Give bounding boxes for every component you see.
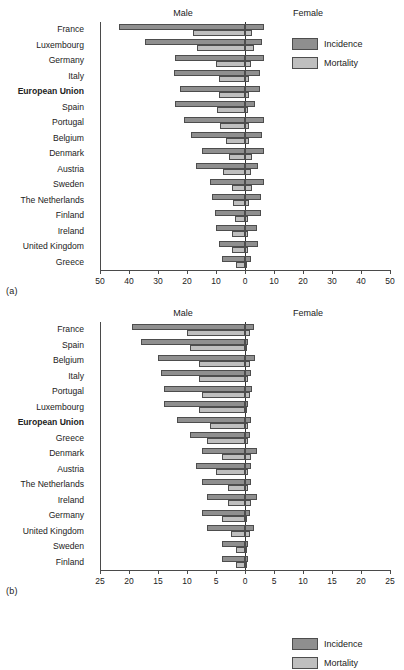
category-label: Germany (49, 56, 84, 65)
bar-female-mortality (245, 107, 248, 113)
bar-female-incidence (245, 386, 252, 392)
bar-male-incidence (222, 256, 245, 262)
bar-male-incidence (210, 179, 245, 185)
bar-male-mortality (228, 500, 245, 506)
female-header-label-b: Female (278, 308, 338, 318)
bar-male-mortality (219, 76, 245, 82)
chart-row: Finland (100, 208, 390, 224)
category-label: Ireland (58, 227, 84, 236)
category-label: The Netherlands (20, 196, 84, 205)
category-label: Ireland (58, 496, 84, 505)
bar-male-mortality (202, 392, 246, 398)
bar-male-mortality (216, 469, 245, 475)
bar-female-mortality (245, 438, 248, 444)
bar-male-incidence (219, 241, 245, 247)
bar-male-incidence (119, 24, 245, 30)
category-label: Denmark (49, 149, 84, 158)
bar-male-mortality (222, 454, 245, 460)
bar-male-incidence (212, 194, 245, 200)
bar-female-mortality (245, 392, 250, 398)
bar-male-incidence (216, 225, 245, 231)
chart-row: The Netherlands (100, 193, 390, 209)
bar-female-incidence (245, 132, 262, 138)
bar-female-mortality (245, 547, 247, 553)
bar-male-incidence (202, 148, 246, 154)
legend-swatch-incidence (292, 638, 318, 650)
bar-male-incidence (164, 401, 245, 407)
chart-row: United Kingdom (100, 239, 390, 255)
bar-female-incidence (245, 541, 248, 547)
bar-male-incidence (161, 370, 245, 376)
bar-female-mortality (245, 154, 252, 160)
x-axis-tick-label: 5 (201, 576, 231, 586)
bar-female-mortality (245, 376, 248, 382)
legend-swatch-mortality (292, 57, 318, 69)
bar-male-mortality (236, 562, 245, 568)
x-axis-tick-label: 10 (288, 576, 318, 586)
chart-row: Finland (100, 555, 390, 571)
bar-male-incidence (132, 324, 245, 330)
bar-female-incidence (245, 355, 255, 361)
legend-label-mortality: Mortality (324, 58, 358, 68)
chart-row: Portugal (100, 115, 390, 131)
bar-female-mortality (245, 531, 250, 537)
bar-female-incidence (245, 448, 257, 454)
chart-row: Austria (100, 462, 390, 478)
category-label: European Union (18, 418, 84, 427)
x-axis-tick-label: 20 (172, 276, 202, 286)
x-axis-tick-label: 15 (317, 576, 347, 586)
bar-female-incidence (245, 117, 264, 123)
bar-male-mortality (207, 438, 245, 444)
x-axis-tick (245, 570, 246, 574)
chart-row: Ireland (100, 224, 390, 240)
legend-swatch-mortality (292, 657, 318, 669)
bar-male-mortality (190, 345, 245, 351)
x-axis-tick-label: 20 (288, 276, 318, 286)
chart-row: Sweden (100, 177, 390, 193)
x-axis-tick (100, 570, 101, 574)
category-label: France (57, 325, 84, 334)
bar-female-mortality (245, 169, 251, 175)
bar-female-incidence (245, 70, 260, 76)
x-axis-tick (129, 570, 130, 574)
bar-female-mortality (245, 562, 247, 568)
bar-female-incidence (245, 241, 258, 247)
x-axis-tick (187, 270, 188, 274)
bar-male-mortality (217, 107, 245, 113)
x-axis-tick (216, 570, 217, 574)
female-header-label-a: Female (278, 8, 338, 18)
bar-male-mortality (229, 154, 245, 160)
bar-male-incidence (190, 432, 245, 438)
x-axis-tick-label: 0 (230, 276, 260, 286)
bar-female-mortality (245, 45, 254, 51)
x-axis-tick-label: 10 (172, 576, 202, 586)
bar-female-mortality (245, 247, 248, 253)
x-axis-tick-label: 10 (201, 276, 231, 286)
bar-female-mortality (245, 200, 249, 206)
category-label: Greece (56, 434, 84, 443)
x-axis-tick-label: 30 (317, 276, 347, 286)
x-axis-tick (332, 270, 333, 274)
x-axis-tick (303, 270, 304, 274)
chart-row: Sweden (100, 539, 390, 555)
bar-male-incidence (177, 417, 245, 423)
bar-male-incidence (196, 163, 245, 169)
chart-row: Belgium (100, 131, 390, 147)
bar-male-mortality (197, 45, 245, 51)
x-axis-tick-label: 15 (143, 576, 173, 586)
category-label: Luxembourg (36, 41, 84, 50)
bar-female-mortality (245, 361, 250, 367)
bar-male-mortality (199, 407, 245, 413)
bar-male-mortality (232, 231, 245, 237)
x-axis-tick (129, 270, 130, 274)
x-axis-tick-label: 50 (375, 276, 404, 286)
male-header-label-a: Male (153, 8, 213, 18)
category-label: Spain (62, 341, 84, 350)
category-label: Belgium (53, 356, 84, 365)
bar-female-mortality (245, 345, 247, 351)
category-label: Spain (62, 103, 84, 112)
bar-male-incidence (184, 117, 245, 123)
bar-female-incidence (245, 101, 255, 107)
category-label: Portugal (52, 118, 84, 127)
chart-row: Greece (100, 255, 390, 271)
